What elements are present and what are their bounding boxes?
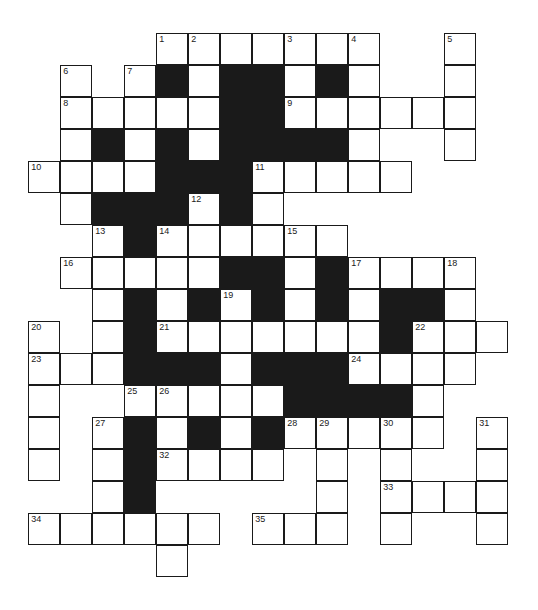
crossword-cell[interactable] <box>188 257 220 289</box>
crossword-cell[interactable] <box>316 481 348 513</box>
crossword-cell[interactable] <box>444 289 476 321</box>
crossword-cell[interactable] <box>316 161 348 193</box>
crossword-cell[interactable] <box>316 225 348 257</box>
crossword-cell[interactable] <box>412 257 444 289</box>
crossword-cell[interactable] <box>188 65 220 97</box>
crossword-cell[interactable] <box>60 513 92 545</box>
crossword-cell-35[interactable]: 35 <box>252 513 284 545</box>
crossword-cell-8[interactable]: 8 <box>60 97 92 129</box>
crossword-cell[interactable] <box>92 161 124 193</box>
crossword-cell[interactable] <box>92 449 124 481</box>
crossword-cell-28[interactable]: 28 <box>284 417 316 449</box>
crossword-cell[interactable] <box>124 257 156 289</box>
crossword-cell[interactable] <box>348 65 380 97</box>
crossword-cell[interactable] <box>156 289 188 321</box>
crossword-cell[interactable] <box>124 161 156 193</box>
crossword-cell[interactable] <box>220 385 252 417</box>
crossword-cell[interactable] <box>444 129 476 161</box>
crossword-cell[interactable] <box>476 449 508 481</box>
crossword-cell[interactable] <box>220 417 252 449</box>
crossword-cell[interactable] <box>252 321 284 353</box>
crossword-cell[interactable] <box>380 97 412 129</box>
crossword-cell[interactable] <box>92 257 124 289</box>
crossword-cell[interactable] <box>188 97 220 129</box>
crossword-cell[interactable] <box>348 97 380 129</box>
crossword-cell[interactable] <box>444 97 476 129</box>
crossword-cell-23[interactable]: 23 <box>28 353 60 385</box>
crossword-cell[interactable] <box>412 417 444 449</box>
crossword-cell[interactable] <box>156 97 188 129</box>
crossword-cell[interactable] <box>156 417 188 449</box>
crossword-cell-19[interactable]: 19 <box>220 289 252 321</box>
crossword-cell-18[interactable]: 18 <box>444 257 476 289</box>
crossword-cell[interactable] <box>60 129 92 161</box>
crossword-cell-15[interactable]: 15 <box>284 225 316 257</box>
crossword-cell[interactable] <box>220 33 252 65</box>
crossword-cell-1[interactable]: 1 <box>156 33 188 65</box>
crossword-cell[interactable] <box>316 513 348 545</box>
crossword-cell[interactable] <box>348 321 380 353</box>
crossword-cell-31[interactable]: 31 <box>476 417 508 449</box>
crossword-cell[interactable] <box>188 129 220 161</box>
crossword-cell[interactable] <box>476 513 508 545</box>
crossword-cell[interactable] <box>92 481 124 513</box>
crossword-cell-5[interactable]: 5 <box>444 33 476 65</box>
crossword-cell[interactable] <box>316 33 348 65</box>
crossword-cell[interactable] <box>316 449 348 481</box>
crossword-cell[interactable] <box>252 193 284 225</box>
crossword-cell[interactable] <box>284 289 316 321</box>
crossword-cell[interactable] <box>92 353 124 385</box>
crossword-cell-24[interactable]: 24 <box>348 353 380 385</box>
crossword-cell-27[interactable]: 27 <box>92 417 124 449</box>
crossword-cell-21[interactable]: 21 <box>156 321 188 353</box>
crossword-cell[interactable] <box>28 449 60 481</box>
crossword-cell[interactable] <box>284 161 316 193</box>
crossword-cell[interactable] <box>444 65 476 97</box>
crossword-cell[interactable] <box>188 385 220 417</box>
crossword-cell-7[interactable]: 7 <box>124 65 156 97</box>
crossword-cell[interactable] <box>188 513 220 545</box>
crossword-cell-3[interactable]: 3 <box>284 33 316 65</box>
crossword-cell[interactable] <box>316 321 348 353</box>
crossword-cell-16[interactable]: 16 <box>60 257 92 289</box>
crossword-cell[interactable] <box>124 97 156 129</box>
crossword-cell[interactable] <box>380 161 412 193</box>
crossword-cell[interactable] <box>284 257 316 289</box>
crossword-cell[interactable] <box>188 225 220 257</box>
crossword-cell[interactable] <box>124 513 156 545</box>
crossword-cell[interactable] <box>412 385 444 417</box>
crossword-cell[interactable] <box>220 225 252 257</box>
crossword-cell-17[interactable]: 17 <box>348 257 380 289</box>
crossword-cell[interactable] <box>252 385 284 417</box>
crossword-cell[interactable] <box>380 257 412 289</box>
crossword-cell-29[interactable]: 29 <box>316 417 348 449</box>
crossword-cell[interactable] <box>60 161 92 193</box>
crossword-cell-32[interactable]: 32 <box>156 449 188 481</box>
crossword-cell[interactable] <box>476 321 508 353</box>
crossword-cell[interactable] <box>28 385 60 417</box>
crossword-cell[interactable] <box>60 193 92 225</box>
crossword-cell[interactable] <box>252 225 284 257</box>
crossword-cell[interactable] <box>92 97 124 129</box>
crossword-cell[interactable] <box>348 161 380 193</box>
crossword-cell[interactable] <box>444 321 476 353</box>
crossword-cell-25[interactable]: 25 <box>124 385 156 417</box>
crossword-cell[interactable] <box>156 257 188 289</box>
crossword-cell[interactable] <box>348 289 380 321</box>
crossword-cell[interactable] <box>220 321 252 353</box>
crossword-cell[interactable] <box>284 321 316 353</box>
crossword-cell[interactable] <box>412 481 444 513</box>
crossword-cell-10[interactable]: 10 <box>28 161 60 193</box>
crossword-cell[interactable] <box>316 97 348 129</box>
crossword-cell[interactable] <box>380 513 412 545</box>
crossword-cell-12[interactable]: 12 <box>188 193 220 225</box>
crossword-cell[interactable] <box>380 449 412 481</box>
crossword-cell[interactable] <box>28 417 60 449</box>
crossword-cell[interactable] <box>124 129 156 161</box>
crossword-cell[interactable] <box>348 417 380 449</box>
crossword-cell-14[interactable]: 14 <box>156 225 188 257</box>
crossword-cell-9[interactable]: 9 <box>284 97 316 129</box>
crossword-cell[interactable] <box>156 545 188 577</box>
crossword-cell-6[interactable]: 6 <box>60 65 92 97</box>
crossword-cell-26[interactable]: 26 <box>156 385 188 417</box>
